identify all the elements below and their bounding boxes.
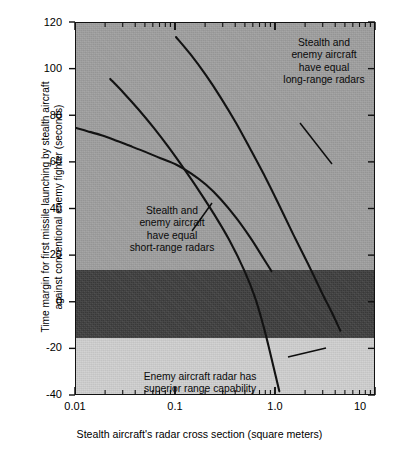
annotation-long-line1: Stealth and xyxy=(262,37,375,49)
plot-area: Stealth and enemy aircraft have equal lo… xyxy=(75,22,375,395)
annotation-short-line2: enemy aircraft xyxy=(108,217,236,229)
y-tick-label-minus20: -20 xyxy=(28,341,62,353)
x-tick-label-0-1: 0.1 xyxy=(151,400,199,412)
y-tick-label-0: 0 xyxy=(28,295,62,307)
annotation-long-line2: enemy aircraft xyxy=(262,49,375,61)
y-tick-label-100: 100 xyxy=(28,62,62,74)
y-tick-label-minus40: -40 xyxy=(28,388,62,400)
y-tick-label-120: 120 xyxy=(28,16,62,28)
y-tick-label-60: 60 xyxy=(28,155,62,167)
annotation-long-range-radars: Stealth and enemy aircraft have equal lo… xyxy=(262,37,375,87)
y-tick-label-20: 20 xyxy=(28,248,62,260)
annotation-enemy-line2: superior range capability xyxy=(116,383,284,395)
y-axis-title-wrapper: Time margin for first missile launching … xyxy=(0,0,46,400)
annotation-short-range-radars: Stealth and enemy aircraft have equal sh… xyxy=(108,205,236,255)
annotation-short-line1: Stealth and xyxy=(108,205,236,217)
x-tick-label-0-01: 0.01 xyxy=(51,400,99,412)
annotation-long-line3: have equal xyxy=(262,62,375,74)
annotation-enemy-line1: Enemy aircraft radar has xyxy=(116,371,284,383)
annotation-short-line3: have equal xyxy=(108,230,236,242)
x-tick-label-10: 10 xyxy=(354,400,396,412)
annotation-short-line4: short-range radars xyxy=(108,242,236,254)
y-tick-label-80: 80 xyxy=(28,109,62,121)
annotation-long-line4: long-range radars xyxy=(262,74,375,86)
x-tick-label-1-0: 1.0 xyxy=(251,400,299,412)
x-axis-title: Stealth aircraft's radar cross section (… xyxy=(0,428,399,440)
annotation-enemy-advantage: Enemy aircraft radar has superior range … xyxy=(116,371,284,395)
y-tick-label-40: 40 xyxy=(28,202,62,214)
stealth-time-margin-chart: Time margin for first missile launching … xyxy=(0,0,399,453)
